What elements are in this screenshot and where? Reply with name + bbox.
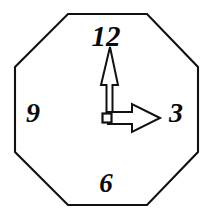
center-pivot [103,114,112,123]
octagon-clock-graphic: 12 3 6 9 [0,0,213,216]
numeral-3: 3 [168,97,183,128]
numeral-9: 9 [26,97,40,128]
clock-figure: 12 3 6 9 [0,0,213,216]
numeral-12: 12 [92,20,121,52]
numeral-6: 6 [99,168,113,198]
